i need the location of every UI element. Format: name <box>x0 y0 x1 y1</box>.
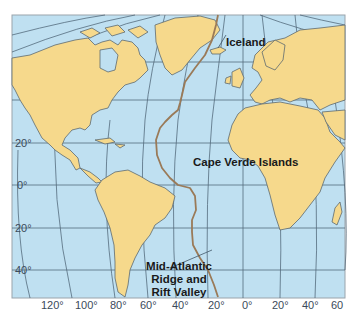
label-ridge-line-1: Mid-Atlantic <box>143 260 215 273</box>
lon-label-120w: 120° <box>41 300 64 311</box>
lon-label-100w: 100° <box>75 300 98 311</box>
lon-label-20e: 20° <box>272 300 289 311</box>
lon-label-60w: 60° <box>140 300 157 311</box>
lon-label-20w: 20° <box>208 300 225 311</box>
lat-label-20n: 20° <box>15 138 32 149</box>
label-mid-atlantic-ridge: Mid-Atlantic Ridge and Rift Valley <box>143 260 215 299</box>
lon-label-40e: 40° <box>302 300 319 311</box>
lon-label-40w: 40° <box>172 300 189 311</box>
lon-label-60e: 60 <box>331 300 343 311</box>
lon-label-80w: 80° <box>110 300 127 311</box>
lat-label-0: 0° <box>17 180 28 191</box>
label-ridge-line-2: Ridge and <box>143 273 215 286</box>
label-iceland: Iceland <box>226 37 266 49</box>
lat-label-20s: 20° <box>15 223 32 234</box>
lon-label-0: 0° <box>242 300 253 311</box>
label-cape-verde: Cape Verde Islands <box>193 157 298 169</box>
label-ridge-line-3: Rift Valley <box>143 286 215 299</box>
lat-label-40s: 40° <box>15 265 32 276</box>
